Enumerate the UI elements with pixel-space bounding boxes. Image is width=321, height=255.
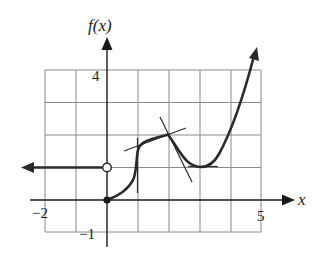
x-tick-neg2: −2 <box>32 205 48 221</box>
function-graph: f(x) x −2 5 4 −1 <box>0 0 321 255</box>
left-arrow-icon <box>21 162 34 173</box>
open-circle <box>103 163 112 172</box>
x-axis <box>30 195 295 206</box>
x-axis-label: x <box>297 190 306 209</box>
y-axis <box>102 37 113 247</box>
y-tick-neg1: −1 <box>79 226 95 242</box>
closed-dot <box>103 196 110 203</box>
grid <box>45 70 261 232</box>
tangent-steep-x2 <box>160 117 192 182</box>
y-tick-4: 4 <box>92 68 100 84</box>
y-axis-label: f(x) <box>88 16 112 35</box>
left-piece <box>21 162 111 173</box>
x-tick-5: 5 <box>257 208 265 224</box>
y-axis-arrow-icon <box>102 37 113 50</box>
x-axis-arrow-icon <box>282 195 295 206</box>
curve-arrow-icon <box>249 47 259 61</box>
